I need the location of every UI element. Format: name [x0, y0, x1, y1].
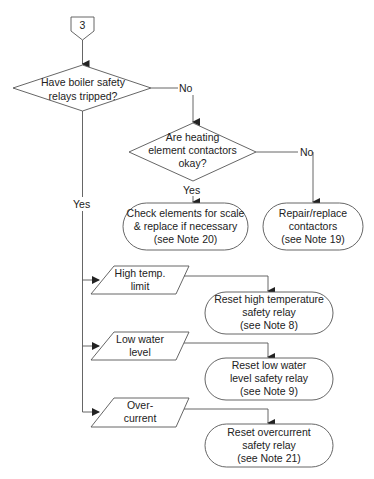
- edge-input1-to-t3: [184, 276, 268, 291]
- terminal-5-text: Reset overcurrent safety relay (see Note…: [203, 426, 335, 465]
- input-1-text: High temp. limit: [100, 267, 180, 293]
- connector-label: 3: [71, 19, 94, 32]
- edge-input3-to-t5: [184, 409, 268, 423]
- edge-label-d1-yes: Yes: [73, 198, 90, 210]
- terminal-4-text: Reset low water level safety relay (see …: [203, 359, 335, 398]
- edge-label-d2-no: No: [300, 146, 313, 158]
- input-3-text: Over- current: [100, 399, 180, 425]
- terminal-2-text: Repair/replace contactors (see Note 19): [263, 207, 363, 246]
- decision-1-text: Have boiler safety relays tripped?: [33, 75, 133, 103]
- edge-label-d1-no: No: [179, 82, 192, 94]
- terminal-3-text: Reset high temperature safety relay (see…: [203, 293, 335, 332]
- input-2-text: Low water level: [100, 333, 180, 359]
- edge-input2-to-t4: [184, 343, 268, 357]
- edge-label-d2-yes: Yes: [183, 184, 200, 196]
- terminal-1-text: Check elements for scale & replace if ne…: [121, 207, 250, 246]
- decision-2-text: Are heating element contactors okay?: [140, 131, 245, 170]
